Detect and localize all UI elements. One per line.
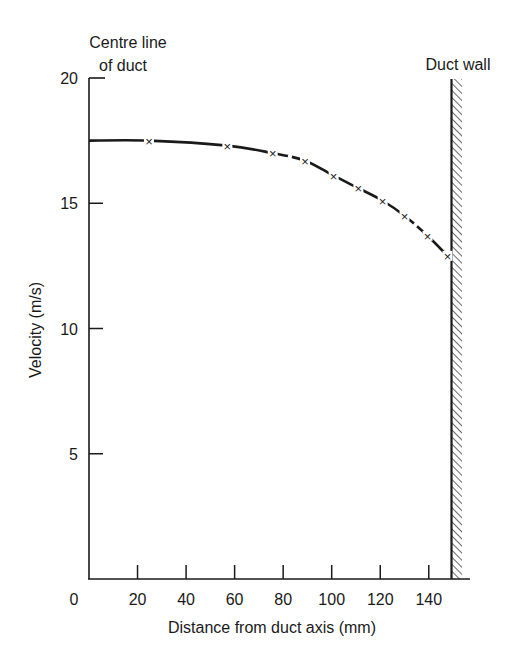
y-tick-label: 5: [69, 446, 78, 463]
velocity-profile-chart: Centre line of duct Duct wall 5101520 20…: [0, 0, 516, 669]
x-ticks: 20406080100120140: [129, 565, 443, 608]
data-point-marker: ×: [301, 154, 309, 169]
x-zero-label: 0: [70, 591, 79, 608]
centre-line-label-2: of duct: [99, 57, 148, 74]
x-tick-label: 20: [129, 591, 147, 608]
y-tick-label: 20: [60, 70, 78, 87]
data-point-marker: ×: [379, 194, 387, 209]
data-point-marker: ×: [355, 181, 363, 196]
y-tick-label: 15: [60, 195, 78, 212]
x-tick-label: 100: [318, 591, 345, 608]
x-tick-label: 40: [177, 591, 195, 608]
data-point-marker: ×: [444, 249, 452, 264]
y-ticks: 5101520: [60, 70, 103, 463]
data-point-marker: ×: [401, 209, 409, 224]
data-point-marker: ×: [424, 229, 432, 244]
y-axis-label: Velocity (m/s): [27, 282, 44, 378]
x-tick-label: 140: [415, 591, 442, 608]
duct-wall-label: Duct wall: [426, 56, 491, 73]
y-tick-label: 10: [60, 321, 78, 338]
x-tick-label: 60: [226, 591, 244, 608]
x-tick-label: 120: [367, 591, 394, 608]
data-point-marker: ×: [145, 134, 153, 149]
centre-line-label-1: Centre line: [89, 34, 166, 51]
data-point-marker: ×: [330, 169, 338, 184]
x-tick-label: 80: [274, 591, 292, 608]
duct-wall-hatch: [451, 79, 462, 579]
data-point-marker: ×: [224, 139, 232, 154]
data-markers: ××××××××××: [144, 134, 453, 264]
x-axis-label: Distance from duct axis (mm): [168, 619, 376, 636]
data-point-marker: ×: [269, 146, 277, 161]
